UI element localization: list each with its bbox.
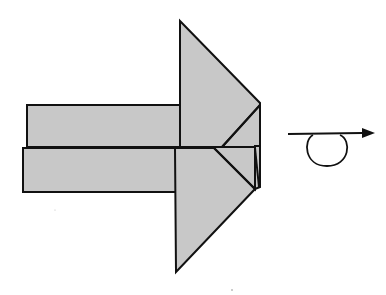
speck [54, 209, 55, 210]
turn-over-arrow-icon [288, 128, 375, 166]
origami-diagram [0, 0, 386, 295]
upper-shaft-rectangle [27, 105, 181, 148]
lower-shaft-rectangle [23, 148, 176, 192]
speck [231, 289, 233, 291]
